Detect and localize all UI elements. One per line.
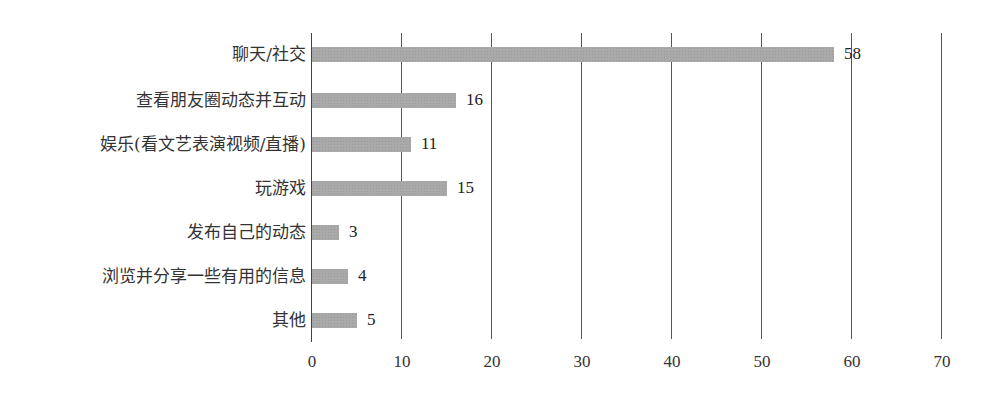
category-label: 其他 xyxy=(272,310,306,330)
category-label: 浏览并分享一些有用的信息 xyxy=(102,266,306,286)
x-tick-label: 0 xyxy=(308,352,317,372)
bar xyxy=(312,269,348,284)
value-label: 5 xyxy=(367,310,376,330)
category-label: 发布自己的动态 xyxy=(187,222,306,242)
bar-chart: 聊天/社交 58 查看朋友圈动态并互动 16 娱乐(看文艺表演视频/直播) 11… xyxy=(0,0,988,405)
bar xyxy=(312,313,357,328)
category-label: 玩游戏 xyxy=(255,178,306,198)
category-label: 聊天/社交 xyxy=(232,44,306,64)
gridline-40 xyxy=(671,33,672,339)
value-label: 16 xyxy=(466,90,483,110)
category-label: 娱乐(看文艺表演视频/直播) xyxy=(100,134,306,154)
gridline-20 xyxy=(491,33,492,339)
gridline-60 xyxy=(851,33,852,339)
value-label: 15 xyxy=(457,178,474,198)
x-tick-label: 10 xyxy=(394,352,411,372)
category-label: 查看朋友圈动态并互动 xyxy=(136,90,306,110)
bar xyxy=(312,47,834,62)
bar xyxy=(312,93,456,108)
value-label: 4 xyxy=(358,266,367,286)
bar xyxy=(312,137,411,152)
gridline-50 xyxy=(761,33,762,339)
gridline-70 xyxy=(941,33,942,339)
bar xyxy=(312,181,447,196)
x-tick-label: 20 xyxy=(484,352,501,372)
value-label: 58 xyxy=(844,44,861,64)
value-label: 3 xyxy=(349,222,358,242)
x-tick-label: 40 xyxy=(664,352,681,372)
x-tick-label: 70 xyxy=(934,352,951,372)
x-tick-label: 30 xyxy=(574,352,591,372)
x-tick-label: 60 xyxy=(844,352,861,372)
bar xyxy=(312,225,339,240)
x-tick-label: 50 xyxy=(754,352,771,372)
gridline-30 xyxy=(581,33,582,339)
value-label: 11 xyxy=(421,134,437,154)
